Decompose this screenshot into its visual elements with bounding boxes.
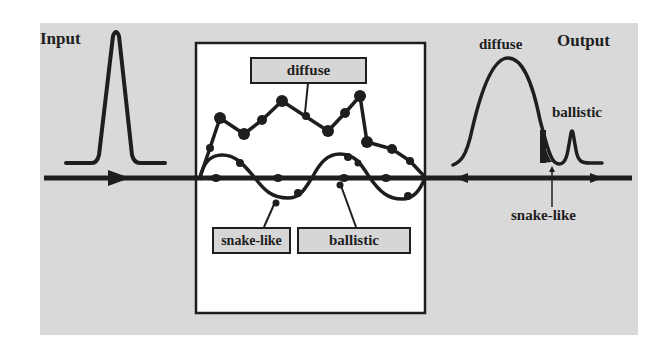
- input-label: Input: [40, 30, 81, 47]
- output-diffuse-label: diffuse: [479, 37, 522, 52]
- photon-propagation-diagram: Input Output diffuse snake-like ballisti…: [0, 0, 668, 345]
- snake-like-box-label: snake-like: [212, 227, 291, 254]
- ballistic-leader-dot: [337, 182, 344, 189]
- output-snake-like-label: snake-like: [511, 208, 576, 223]
- output-label: Output: [557, 32, 610, 49]
- diffuse-box-label: diffuse: [250, 57, 367, 84]
- diagram-canvas: [0, 0, 668, 345]
- output-ballistic-label: ballistic: [552, 105, 602, 120]
- snake-like-leader-dot: [273, 200, 280, 207]
- ballistic-box-label: ballistic: [297, 227, 411, 254]
